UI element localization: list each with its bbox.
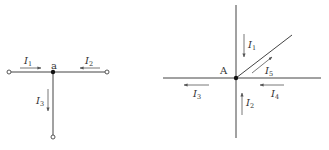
label-I3: I3 xyxy=(192,88,201,101)
label-i2: I2 xyxy=(84,55,93,68)
label-I4: I4 xyxy=(270,88,279,101)
terminal-right xyxy=(105,70,109,74)
label-I5: I5 xyxy=(264,65,273,78)
right-circuit-diagram: A I1 I5 I3 I4 I2 xyxy=(163,5,321,138)
node-A-dot xyxy=(234,76,238,80)
terminal-left xyxy=(7,70,11,74)
label-i3: I3 xyxy=(35,95,44,108)
node-a-label: a xyxy=(51,60,57,71)
left-circuit-diagram: a I1 I2 I3 xyxy=(7,55,109,139)
node-A-label: A xyxy=(219,65,228,76)
label-I1: I1 xyxy=(247,39,256,52)
label-i1: I1 xyxy=(23,55,32,68)
label-I2: I2 xyxy=(245,97,254,110)
terminal-bottom xyxy=(51,135,55,139)
